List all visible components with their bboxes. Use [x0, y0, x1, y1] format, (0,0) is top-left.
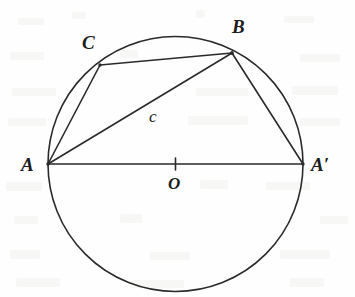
point-label-B: B — [232, 17, 245, 36]
vertex-dot-A — [46, 162, 49, 165]
segment-chord-C-B — [100, 53, 232, 65]
segment-chord-B-Aprime — [232, 53, 303, 164]
vertex-dot-B — [230, 51, 234, 55]
segment-chord-A-B — [48, 53, 232, 164]
vertex-dot-Aprime — [301, 162, 304, 165]
point-label-C: C — [82, 33, 95, 52]
segment-label-c: c — [149, 108, 157, 125]
point-label-A: A — [21, 155, 34, 174]
geometry-figure: A A′ B C O c — [0, 0, 355, 297]
vertex-dot-C — [98, 63, 101, 66]
point-label-A-prime: A′ — [311, 155, 329, 174]
point-label-O: O — [168, 175, 180, 192]
